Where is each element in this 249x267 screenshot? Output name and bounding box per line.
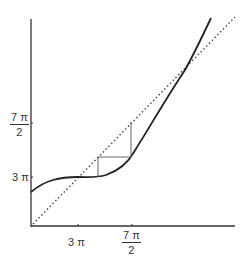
y-tick-7pi-2-denominator: 2	[16, 125, 22, 138]
x-tick-7pi-2-denominator: 2	[128, 243, 134, 256]
x-tick-label-3pi: 3 π	[68, 236, 85, 248]
cobweb-diagram	[0, 0, 249, 267]
y-tick-7pi-2-numerator: 7 π	[10, 111, 29, 125]
identity-line	[33, 17, 235, 224]
function-curve	[31, 18, 211, 192]
x-tick-label-7pi-2: 7 π 2	[122, 229, 141, 256]
y-tick-label-7pi-2: 7 π 2	[10, 111, 29, 138]
x-tick-7pi-2-numerator: 7 π	[122, 229, 141, 243]
cobweb-path	[98, 122, 131, 177]
y-tick-label-3pi: 3 π	[12, 171, 29, 183]
